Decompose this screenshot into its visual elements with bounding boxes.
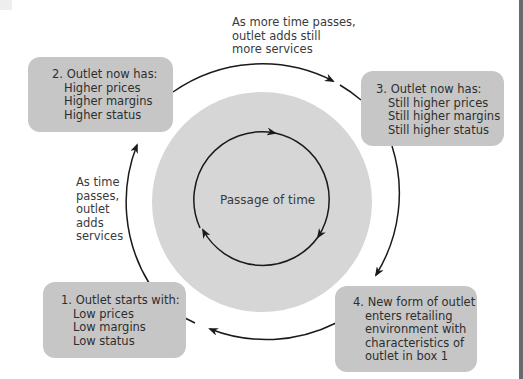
box-heading: 1. Outlet starts with: [61, 294, 186, 308]
note-left: As time passes, outlet adds services [76, 176, 123, 244]
box-heading: 2. Outlet now has: [52, 68, 173, 82]
box-line: Low prices [61, 308, 186, 322]
note-line: outlet [76, 203, 123, 217]
note-top: As more time passes, outlet adds still m… [232, 16, 356, 57]
box-line: characteristics of [353, 337, 477, 351]
box-2-outlet-now-has: 2. Outlet now has: Higher prices Higher … [28, 57, 173, 132]
box-line: Higher margins [52, 95, 173, 109]
box-line: Low status [61, 335, 186, 349]
box-1-outlet-starts-with: 1. Outlet starts with: Low prices Low ma… [43, 282, 186, 358]
box-line: enters retailing [353, 310, 477, 324]
note-line: passes, [76, 190, 123, 204]
note-line: adds [76, 217, 123, 231]
box-line: Still higher status [376, 124, 504, 138]
note-line: more services [232, 43, 356, 57]
box-line: environment with [353, 323, 477, 337]
box-heading: 4. New form of outlet [353, 296, 477, 310]
box-line: Higher status [52, 109, 173, 123]
note-line: services [76, 230, 123, 244]
center-label: Passage of time [220, 193, 315, 207]
box-line: Higher prices [52, 82, 173, 96]
note-line: As more time passes, [232, 16, 356, 30]
box-line: outlet in box 1 [353, 350, 477, 364]
note-line: outlet adds still [232, 30, 356, 44]
box-line: Still higher margins [376, 110, 504, 124]
note-line: As time [76, 176, 123, 190]
box-line: Low margins [61, 321, 186, 335]
box-3-outlet-now-has: 3. Outlet now has: Still higher prices S… [361, 71, 504, 146]
box-heading: 3. Outlet now has: [376, 83, 504, 97]
box-line: Still higher prices [376, 97, 504, 111]
box-4-new-form-of-outlet: 4. New form of outlet enters retailing e… [335, 286, 477, 372]
